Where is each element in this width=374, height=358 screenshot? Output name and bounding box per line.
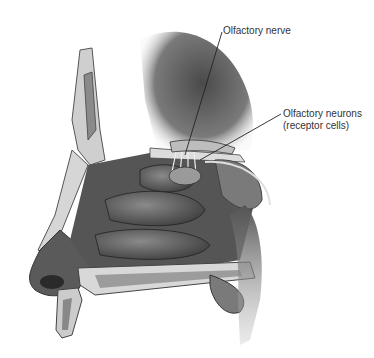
- nostril: [40, 275, 64, 289]
- anatomy-drawing: [0, 0, 374, 358]
- olfactory-neurons-label: Olfactory neurons (receptor cells): [283, 108, 362, 132]
- olfactory-neurons-text: Olfactory neurons: [283, 108, 362, 120]
- olfactory-epithelium: [169, 167, 201, 185]
- olfactory-nerve-text: Olfactory nerve: [223, 25, 291, 36]
- olfactory-nerve-label: Olfactory nerve: [223, 25, 291, 37]
- receptor-cells-text: (receptor cells): [283, 120, 362, 132]
- nasal-cavity-illustration: Olfactory nerve Olfactory neurons (recep…: [0, 0, 374, 358]
